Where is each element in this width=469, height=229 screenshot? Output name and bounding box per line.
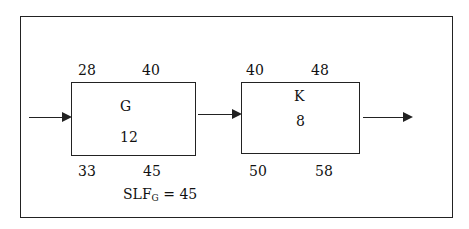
activity-g-duration: 12 [120,129,138,145]
activity-k-ls: 50 [249,163,267,179]
activity-k-lf: 58 [315,163,333,179]
activity-k-name: K [294,88,304,104]
activity-g-ls: 33 [78,163,96,179]
activity-k-duration: 8 [296,113,305,129]
connecting-arrow [198,114,240,115]
activity-k-es: 40 [246,62,264,78]
activity-g-ef: 40 [142,62,160,78]
outgoing-arrow [363,117,411,118]
activity-g-name: G [120,98,131,114]
activity-k-ef: 48 [311,62,329,78]
incoming-arrow [29,117,70,118]
slack-annotation: SLFG = 45 [123,186,197,206]
activity-g-es: 28 [78,62,96,78]
activity-g-lf: 45 [143,163,161,179]
